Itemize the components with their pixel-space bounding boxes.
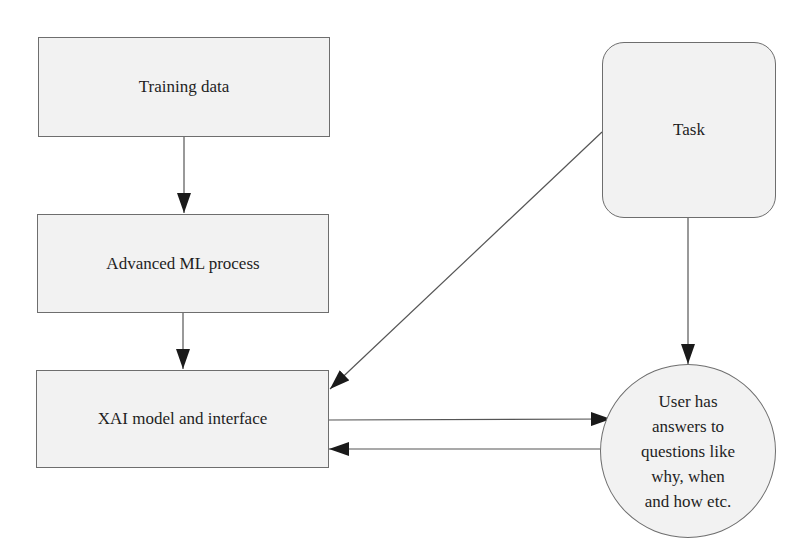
node-task: Task [602,42,776,218]
edge-xai-to-user [329,419,611,420]
node-user-has-answers: User has answers to questions like why, … [600,364,776,538]
node-xai-model-and-interface: XAI model and interface [36,370,329,468]
node-label: Task [673,119,705,141]
edge-task-to-xai [330,132,602,389]
node-label: XAI model and interface [98,408,267,430]
node-label: Advanced ML process [106,253,259,275]
node-training-data: Training data [38,37,330,137]
node-advanced-ml-process: Advanced ML process [37,214,329,313]
node-label: Training data [139,76,230,98]
node-label: User has answers to questions like why, … [641,389,735,514]
